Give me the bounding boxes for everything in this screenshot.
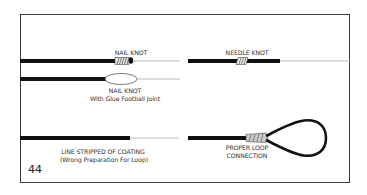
proper-loop-label: PROPER LOOP: [222, 144, 272, 152]
nail-knot-label: NAIL KNOT: [108, 49, 154, 57]
loop-icon: [266, 120, 326, 155]
nail-knot-glue-illustration: [20, 74, 180, 85]
nail-knot-glue-label: NAIL KNOT: [100, 87, 150, 95]
needle-knot-label: NEEDLE KNOT: [222, 49, 272, 57]
nail-knot-illustration: [20, 57, 180, 64]
page-number: 44: [28, 163, 42, 176]
glue-football-joint-icon: [105, 74, 137, 85]
stripped-line-illustration: [20, 136, 179, 140]
needle-knot-wrap-icon: [236, 58, 248, 65]
knot-illustrations: [0, 0, 367, 195]
loop-wrap-icon: [246, 133, 268, 143]
nail-knot-glue-sublabel: With Glue Football Joint: [88, 95, 162, 103]
stripped-line-sublabel: (Wrong Preparation For Loop): [60, 156, 146, 164]
needle-knot-illustration: [188, 58, 350, 65]
nail-knot-wrap-icon: [115, 58, 129, 65]
proper-loop-sublabel: CONNECTION: [222, 152, 272, 160]
stripped-line-label: LINE STRIPPED OF COATING: [60, 148, 146, 156]
